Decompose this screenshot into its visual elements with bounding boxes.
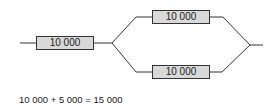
resistor-label: 10 000	[166, 66, 197, 77]
resistor-parallel-top: 10 000	[152, 10, 210, 24]
equation-text: 10 000 + 5 000 = 15 000	[19, 94, 123, 105]
resistor-series: 10 000	[36, 36, 94, 50]
resistor-label: 10 000	[166, 11, 197, 22]
resistor-label: 10 000	[50, 37, 81, 48]
resistor-parallel-bottom: 10 000	[152, 65, 210, 79]
